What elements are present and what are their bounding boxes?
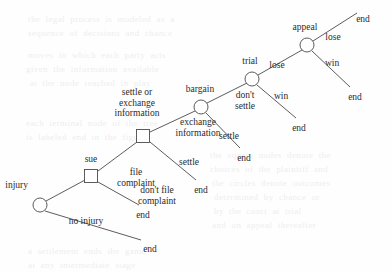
branch-label-injury-to-end: no injury xyxy=(69,216,104,227)
branch-label-soe-exchange-info: exchange information xyxy=(176,117,221,138)
branch-label-sue-dont-file: don't file complaint xyxy=(138,185,176,206)
branch-label-trial-win: win xyxy=(274,91,288,102)
leaf-end_appeal_lose: end xyxy=(356,14,370,25)
leaf-end_dont_file: end xyxy=(136,210,150,221)
branch-label-trial-lose: lose xyxy=(269,60,284,71)
node-label-settle_or_exchange: settle or exchange information xyxy=(115,87,160,119)
leaf-end_settle_2: end xyxy=(237,153,251,164)
leaf-end_settle_1: end xyxy=(194,185,208,196)
leaf-end_trial_win: end xyxy=(292,123,306,134)
node-appeal[interactable] xyxy=(300,38,314,52)
node-label-injury: injury xyxy=(5,180,28,191)
node-settle_or_exchange[interactable] xyxy=(137,130,150,143)
branch-label-appeal-win: win xyxy=(325,58,339,69)
node-label-trial: trial xyxy=(242,56,257,67)
node-label-appeal: appeal xyxy=(293,22,318,33)
node-label-bargain: bargain xyxy=(186,84,214,95)
leaf-end_no_injury: end xyxy=(143,244,157,255)
branch-label-appeal-lose: lose xyxy=(325,32,340,43)
node-sue[interactable] xyxy=(85,170,98,183)
branch-label-bargain-settle: settle xyxy=(219,131,239,142)
decision-tree-figure: the legal process is modeled as asequenc… xyxy=(0,0,392,273)
node-trial[interactable] xyxy=(245,72,259,86)
node-bargain[interactable] xyxy=(194,100,208,114)
leaf-end_appeal_win: end xyxy=(348,92,362,103)
branch-label-bargain-dont-settle: don't settle xyxy=(235,90,255,111)
node-label-sue: sue xyxy=(85,154,98,165)
edge-trial-win xyxy=(257,85,296,118)
node-injury[interactable] xyxy=(33,198,47,212)
edge-injury-to-sue xyxy=(46,180,85,201)
branch-label-soe-settle: settle xyxy=(179,157,199,168)
edge-appeal-win xyxy=(312,51,350,87)
